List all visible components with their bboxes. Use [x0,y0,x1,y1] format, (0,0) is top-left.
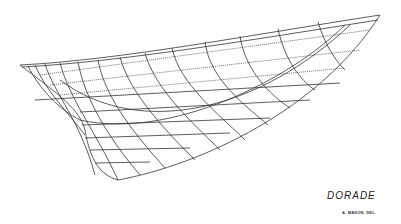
drawing-title: DORADE [327,190,376,201]
drawing-credit: A. MASON, DEL. [342,210,376,215]
